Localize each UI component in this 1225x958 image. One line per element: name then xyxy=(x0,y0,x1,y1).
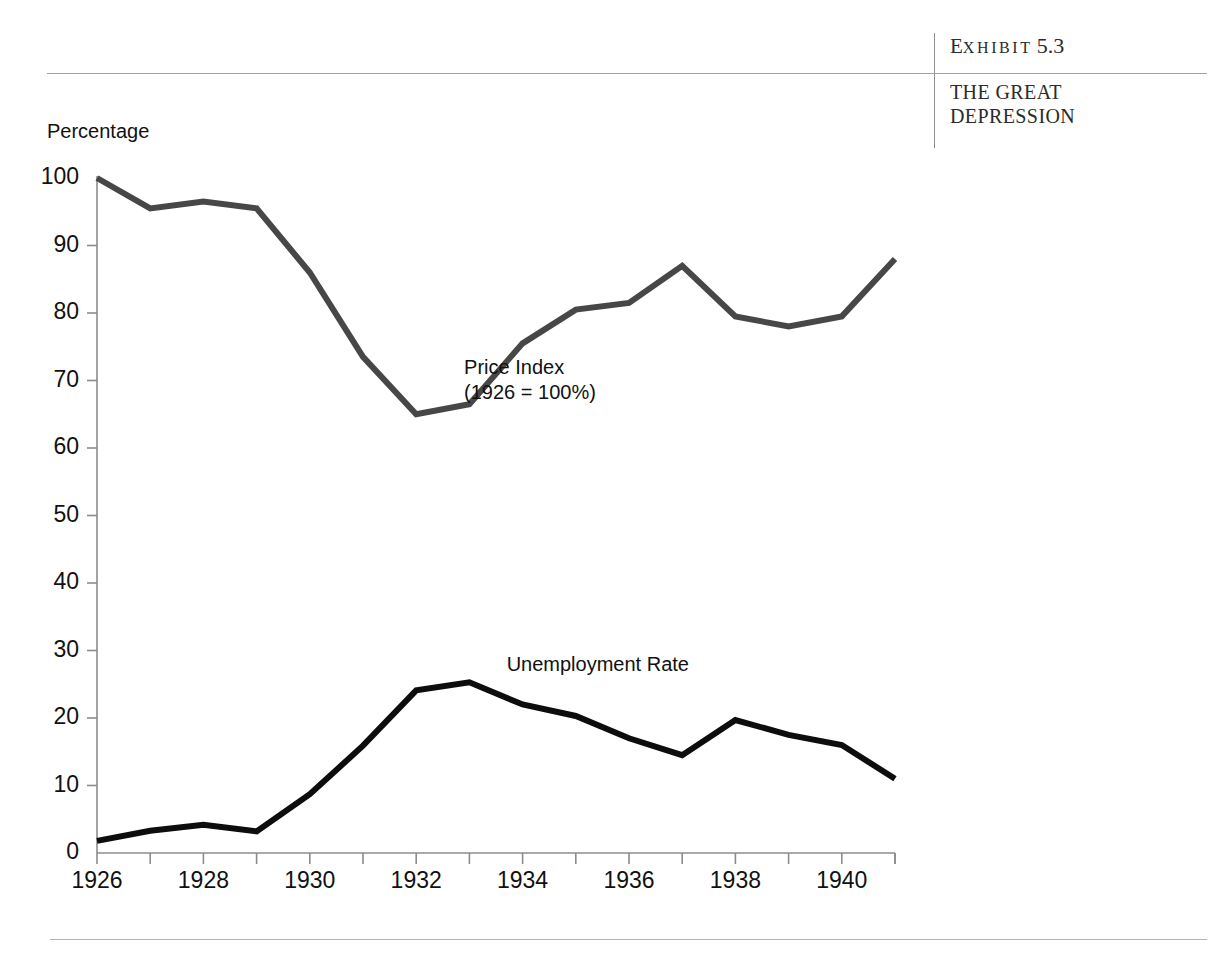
chart-plot-svg xyxy=(0,0,1225,958)
y-axis-tick-label: 70 xyxy=(27,366,79,393)
price-index-series-label: Price Index (1926 = 100%) xyxy=(464,355,596,405)
y-axis-tick-label: 60 xyxy=(27,433,79,460)
y-axis-tick-label: 20 xyxy=(27,703,79,730)
x-axis-tick-label: 1934 xyxy=(483,867,563,894)
y-axis-tick-label: 90 xyxy=(27,231,79,258)
x-axis-tick-label: 1928 xyxy=(163,867,243,894)
y-axis-tick-label: 100 xyxy=(27,163,79,190)
unemployment-rate-series-label: Unemployment Rate xyxy=(507,652,689,677)
y-axis-tick-label: 0 xyxy=(27,838,79,865)
x-axis-tick-label: 1938 xyxy=(695,867,775,894)
y-axis-tick-label: 30 xyxy=(27,636,79,663)
x-axis-tick-label: 1936 xyxy=(589,867,669,894)
x-axis-tick-label: 1926 xyxy=(57,867,137,894)
series-line-unemployment-rate xyxy=(97,682,895,841)
y-axis-tick-label: 50 xyxy=(27,501,79,528)
x-axis-tick-label: 1940 xyxy=(802,867,882,894)
y-axis-tick-label: 10 xyxy=(27,771,79,798)
x-axis-tick-label: 1930 xyxy=(270,867,350,894)
great-depression-line-chart: Percentage 01020304050607080901001926192… xyxy=(0,0,1225,958)
y-axis-tick-label: 40 xyxy=(27,568,79,595)
y-axis-tick-label: 80 xyxy=(27,298,79,325)
x-axis-tick-label: 1932 xyxy=(376,867,456,894)
